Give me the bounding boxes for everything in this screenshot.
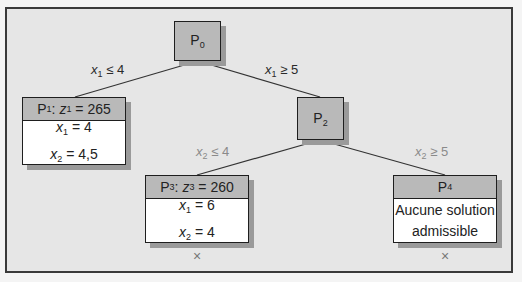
edge-label-x1-le-4: x1 ≤ 4 (91, 62, 124, 79)
edge-label-x1-ge-5: x1 ≥ 5 (265, 62, 298, 79)
node-p1: P1: z1 = 265 x1 = 4 x2 = 4,5 (22, 97, 126, 165)
node-p4: P4 Aucune solution admissible (393, 175, 497, 243)
node-p2-label: P2 (313, 110, 327, 128)
node-p0-label: P0 (190, 32, 204, 50)
node-p3-x2: x2 = 4 (179, 221, 215, 248)
node-p3-solution: x1 = 6 x2 = 4 (146, 199, 248, 243)
node-p1-x1: x1 = 4 (56, 116, 92, 143)
node-p4-header: P4 (394, 176, 496, 199)
edge-label-x2-le-4: x2 ≤ 4 (196, 144, 229, 161)
edge-label-x2-ge-5: x2 ≥ 5 (415, 144, 448, 161)
node-p1-x2: x2 = 4,5 (50, 143, 97, 170)
node-p2: P2 (297, 97, 344, 140)
node-p0: P0 (174, 21, 221, 61)
pruned-mark-p4: × (441, 248, 449, 264)
node-p1-solution: x1 = 4 x2 = 4,5 (23, 121, 125, 165)
node-p3-x1: x1 = 6 (179, 194, 215, 221)
edge-p0-p2 (198, 61, 320, 97)
pruned-mark-p3: × (193, 248, 201, 264)
node-p3: P3: z3 = 260 x1 = 6 x2 = 4 (145, 175, 249, 243)
node-p4-message: Aucune solution admissible (394, 199, 496, 243)
